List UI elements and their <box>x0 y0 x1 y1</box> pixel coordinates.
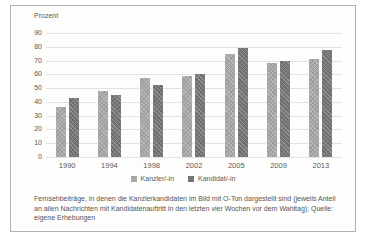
bar-group: 2005 <box>225 33 248 157</box>
bar-kandidatin <box>111 95 121 157</box>
bar-kanzlerin <box>56 107 66 157</box>
x-axis-tick-label: 1998 <box>143 161 160 170</box>
y-axis-tick-label: 60 <box>11 70 42 78</box>
x-axis-tick-label: 1990 <box>59 161 76 170</box>
y-axis-tick-label: 10 <box>11 139 42 147</box>
bar-groups: 1990199419982002200520092013 <box>46 33 342 157</box>
bar-kandidatin <box>195 74 205 157</box>
bar-group: 1994 <box>98 33 121 157</box>
gridline <box>46 157 342 158</box>
plot-area: 1990199419982002200520092013 <box>46 33 342 157</box>
x-axis-tick-label: 2002 <box>186 161 203 170</box>
bar-group: 2002 <box>182 33 205 157</box>
x-axis-tick-label: 2013 <box>312 161 329 170</box>
bar-kandidatin <box>238 48 248 157</box>
bar-kanzlerin <box>225 54 235 157</box>
bar-kanzlerin <box>182 76 192 157</box>
y-axis-tick-label: 50 <box>11 84 42 92</box>
bar-kanzlerin <box>309 59 319 157</box>
y-axis-title: Prozent <box>34 12 58 19</box>
y-axis-tick-label: 90 <box>11 29 42 37</box>
bar-group: 1998 <box>140 33 163 157</box>
legend-swatch-icon <box>131 176 137 182</box>
y-axis-tick-label: 20 <box>11 125 42 133</box>
bar-group: 1990 <box>56 33 79 157</box>
chart-figure: Prozent 9080706050403020100 199019941998… <box>10 5 356 232</box>
bar-kandidatin <box>280 61 290 157</box>
bar-kandidatin <box>153 85 163 157</box>
legend-label: Kanzler/-in <box>141 175 174 182</box>
y-axis-tick-label: 70 <box>11 57 42 65</box>
bar-kandidatin <box>322 50 332 157</box>
legend-item: Kanzler/-in <box>131 175 174 182</box>
x-axis-tick-label: 2005 <box>228 161 245 170</box>
y-axis-tick-label: 40 <box>11 98 42 106</box>
bar-kandidatin <box>69 98 79 157</box>
x-axis-tick-label: 1994 <box>101 161 118 170</box>
y-axis-tick-label: 30 <box>11 112 42 120</box>
bar-group: 2009 <box>267 33 290 157</box>
legend-swatch-icon <box>188 176 194 182</box>
legend: Kanzler/-inKandidat/-in <box>11 175 355 182</box>
bar-kanzlerin <box>140 78 150 157</box>
y-axis-tick-label: 80 <box>11 43 42 51</box>
x-axis-tick-label: 2009 <box>270 161 287 170</box>
bar-kanzlerin <box>98 91 108 157</box>
legend-label: Kandidat/-in <box>198 175 235 182</box>
bar-kanzlerin <box>267 63 277 157</box>
legend-item: Kandidat/-in <box>188 175 235 182</box>
caption: Fernsehbeiträge, in denen die Kanzlerkan… <box>34 194 341 223</box>
bar-group: 2013 <box>309 33 332 157</box>
y-axis-tick-label: 0 <box>11 153 42 161</box>
